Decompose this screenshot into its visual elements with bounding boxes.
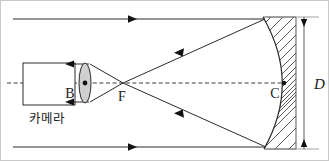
diverging-ray-upper xyxy=(90,64,123,83)
optics-figure: B F C D 카메라 xyxy=(0,0,329,161)
incoming-ray-bottom-arrow-icon xyxy=(128,143,137,151)
label-mirror-vertex: C xyxy=(270,86,279,101)
dimension-arrow-bottom-icon xyxy=(301,139,307,147)
dimension-arrow-top-icon xyxy=(301,19,307,27)
reflected-ray-lower-arrow-icon xyxy=(174,110,184,118)
reflected-ray-upper xyxy=(123,19,265,83)
reflected-ray-lower xyxy=(123,83,266,147)
label-lens-point: B xyxy=(65,86,74,101)
label-focus-point: F xyxy=(118,89,126,104)
ray-diagram-canvas: B F C D 카메라 xyxy=(1,1,329,161)
mirror-vertex-point xyxy=(282,81,286,85)
reflected-ray-upper-arrow-icon xyxy=(174,48,184,56)
label-camera: 카메라 xyxy=(29,111,65,126)
converging-lens xyxy=(79,63,91,103)
lens-center-point xyxy=(83,81,88,86)
label-diameter: D xyxy=(313,76,325,92)
incoming-ray-top-arrow-icon xyxy=(128,15,137,23)
